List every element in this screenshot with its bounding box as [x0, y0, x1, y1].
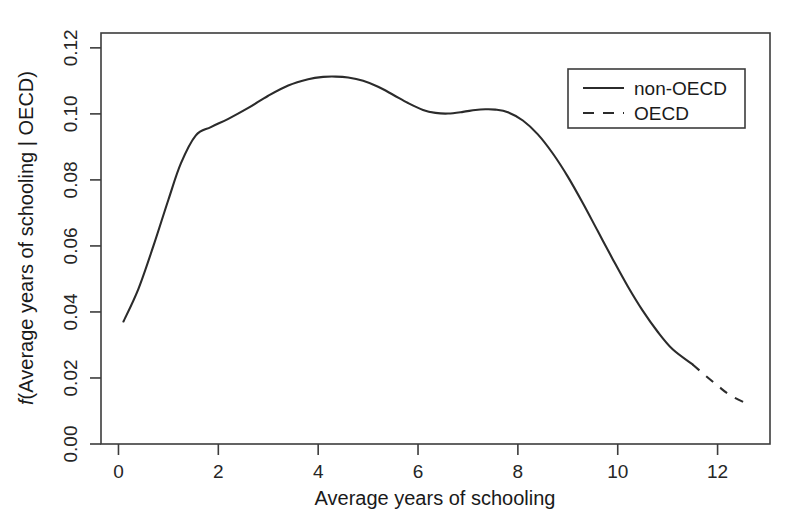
x-tick-label: 0 [113, 461, 124, 482]
x-tick-label: 10 [607, 461, 628, 482]
svg-text:f(Average years of schooling |: f(Average years of schooling | OECD) [15, 71, 37, 405]
legend-label-non-oecd: non-OECD [634, 78, 727, 99]
chart-svg: 0.000.020.040.060.080.100.12 024681012 n… [0, 0, 790, 523]
y-tick-label: 0.00 [60, 426, 81, 463]
y-tick-label: 0.04 [60, 293, 81, 330]
legend: non-OECD OECD [568, 69, 745, 128]
x-axis-title: Average years of schooling [315, 487, 556, 509]
legend-label-oecd: OECD [634, 103, 689, 124]
y-axis-title: f(Average years of schooling | OECD) [15, 71, 37, 405]
x-tick-label: 12 [707, 461, 728, 482]
x-tick-label: 6 [413, 461, 424, 482]
x-axis-tick-labels: 024681012 [113, 461, 728, 482]
y-axis-title-rest: (Average years of schooling | OECD) [15, 71, 37, 399]
y-tick-label: 0.06 [60, 227, 81, 264]
series-line-oecd [693, 364, 748, 404]
y-tick-label: 0.12 [60, 29, 81, 66]
y-axis-tick-labels: 0.000.020.040.060.080.100.12 [60, 29, 81, 462]
y-axis-ticks [90, 48, 101, 444]
x-axis-ticks [118, 444, 717, 455]
y-tick-label: 0.08 [60, 161, 81, 198]
x-tick-label: 8 [513, 461, 524, 482]
y-tick-label: 0.10 [60, 95, 81, 132]
x-tick-label: 2 [213, 461, 224, 482]
density-plot-figure: 0.000.020.040.060.080.100.12 024681012 n… [0, 0, 790, 523]
x-tick-label: 4 [313, 461, 324, 482]
y-tick-label: 0.02 [60, 359, 81, 396]
